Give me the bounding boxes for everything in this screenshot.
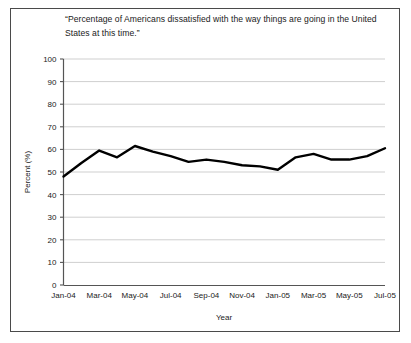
figure-canvas: “Percentage of Americans dissatisfied wi… xyxy=(0,0,411,343)
chart-frame-border xyxy=(10,8,400,332)
chart-title: “Percentage of Americans dissatisfied wi… xyxy=(65,13,385,40)
